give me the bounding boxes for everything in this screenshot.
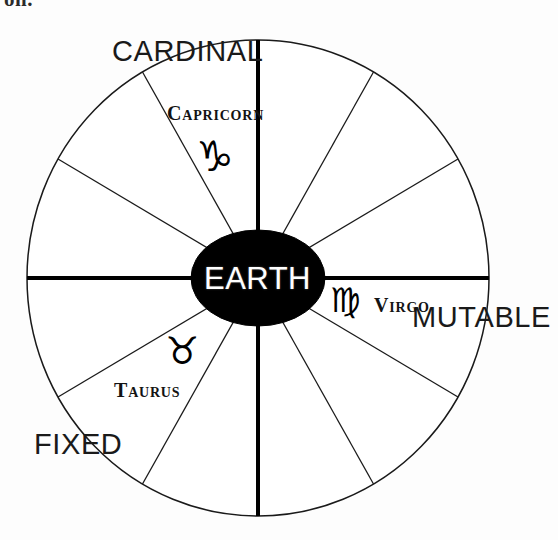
sign-name-taurus: Taurus bbox=[114, 379, 180, 402]
quality-label-mutable: MUTABLE bbox=[412, 301, 551, 334]
sign-name-virgo: Virgo bbox=[374, 294, 430, 317]
diagram-canvas: on. bbox=[0, 0, 558, 540]
taurus-glyph-icon: ♉ bbox=[165, 332, 199, 370]
earth-center-label: EARTH bbox=[204, 261, 311, 297]
quality-label-fixed: FIXED bbox=[34, 428, 122, 461]
virgo-glyph-icon: ♍ bbox=[330, 283, 360, 317]
capricorn-glyph-icon: ♑ bbox=[196, 136, 234, 178]
quality-label-cardinal: CARDINAL bbox=[112, 35, 263, 68]
sign-name-capricorn: Capricorn bbox=[167, 102, 264, 125]
